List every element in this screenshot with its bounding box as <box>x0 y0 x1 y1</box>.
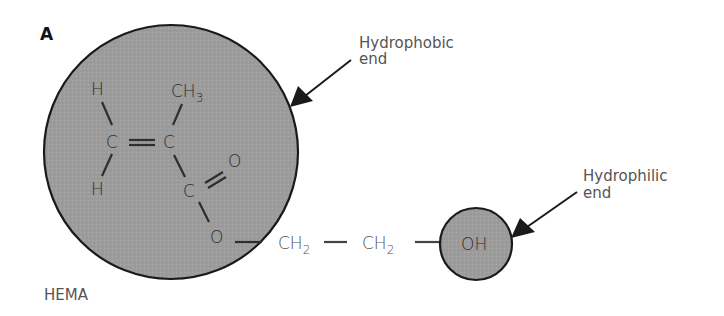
atom-h-bottom: H <box>91 179 104 199</box>
panel-label: A <box>40 24 54 44</box>
atom-o-carbonyl: O <box>228 151 241 171</box>
hydrophobic-arrow-icon <box>290 60 351 107</box>
atom-h-top: H <box>91 79 104 99</box>
hydrophilic-arrow-icon <box>511 192 577 238</box>
atom-c-right: C <box>163 132 175 152</box>
atom-ch2-1: CH2 <box>278 233 310 257</box>
atom-ch2-2: CH2 <box>362 233 394 257</box>
atom-oh: OH <box>461 234 487 254</box>
hydrophilic-label: Hydrophilic end <box>583 167 672 202</box>
ethylene-chain: CH2 CH2 <box>278 233 394 257</box>
molecule-name: HEMA <box>44 286 89 304</box>
atom-o-ester: O <box>210 227 223 247</box>
hydrophobic-label: Hydrophobic end <box>359 34 459 68</box>
hema-diagram: A H H C C CH3 O C O CH2 CH2 OH Hydrophob <box>0 0 724 316</box>
atom-c-left: C <box>106 132 118 152</box>
atom-c-carbonyl: C <box>183 181 195 201</box>
